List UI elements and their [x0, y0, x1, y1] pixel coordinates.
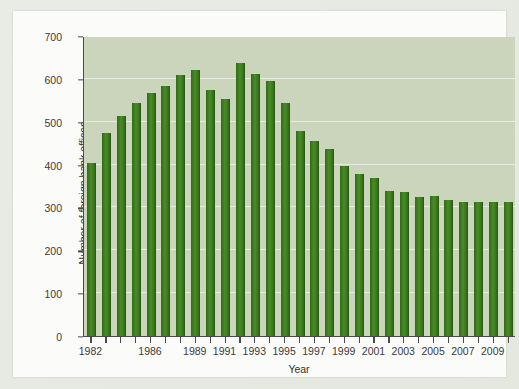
plot-inner	[84, 37, 515, 336]
y-tick-label: 700	[28, 31, 62, 43]
x-tick-label: 2007	[451, 345, 474, 357]
bar	[176, 75, 185, 336]
y-tick-label: 600	[28, 74, 62, 86]
x-tick-mark	[314, 337, 315, 343]
bar	[281, 103, 290, 336]
bar	[340, 166, 349, 336]
y-tick-mark	[78, 336, 83, 337]
x-tick-label: 2005	[421, 345, 444, 357]
x-axis-title: Year	[83, 363, 515, 375]
x-tick-mark	[254, 337, 255, 343]
bar	[415, 197, 424, 336]
x-tick-mark	[508, 337, 509, 343]
x-tick-mark	[418, 337, 419, 343]
y-tick-mark	[78, 208, 83, 209]
y-tick-label: 100	[28, 288, 62, 300]
bar	[102, 133, 111, 336]
bar	[117, 116, 126, 336]
x-tick-mark	[344, 337, 345, 343]
y-tick-label: 300	[28, 202, 62, 214]
x-tick-mark	[195, 337, 196, 343]
bar	[266, 81, 275, 336]
x-tick-mark	[135, 337, 136, 343]
y-tick-mark	[78, 293, 83, 294]
figure-page: Number of foreign bank offices Year 0100…	[0, 0, 519, 389]
bar	[236, 63, 245, 336]
bar	[370, 178, 379, 336]
x-tick-label: 1999	[332, 345, 355, 357]
x-tick-mark	[284, 337, 285, 343]
bar	[161, 86, 170, 336]
x-tick-label: 1993	[243, 345, 266, 357]
x-tick-label: 1989	[183, 345, 206, 357]
x-tick-mark	[373, 337, 374, 343]
y-tick-mark	[78, 122, 83, 123]
y-tick-mark	[78, 165, 83, 166]
x-tick-label: 2003	[392, 345, 415, 357]
bar	[206, 90, 215, 336]
gridline	[84, 78, 515, 79]
x-tick-mark	[150, 337, 151, 343]
bar	[325, 149, 334, 336]
bar	[504, 202, 513, 336]
bar	[296, 131, 305, 336]
bar	[355, 174, 364, 336]
x-tick-label: 1982	[79, 345, 102, 357]
y-tick-label: 400	[28, 160, 62, 172]
x-tick-mark	[493, 337, 494, 343]
bar	[221, 99, 230, 336]
bar	[400, 192, 409, 336]
bar	[147, 93, 156, 336]
x-tick-label: 1997	[302, 345, 325, 357]
plot-area	[83, 37, 515, 337]
bar	[474, 202, 483, 336]
x-tick-mark	[269, 337, 270, 343]
x-tick-mark	[448, 337, 449, 343]
bar	[191, 70, 200, 336]
y-tick-mark	[78, 36, 83, 37]
y-tick-label: 500	[28, 117, 62, 129]
bar	[385, 191, 394, 336]
x-tick-label: 1986	[138, 345, 161, 357]
x-tick-mark	[463, 337, 464, 343]
x-tick-label: 1991	[213, 345, 236, 357]
x-tick-mark	[225, 337, 226, 343]
y-tick-mark	[78, 251, 83, 252]
figure-card: Number of foreign bank offices Year 0100…	[13, 11, 506, 377]
x-tick-mark	[180, 337, 181, 343]
bar	[251, 74, 260, 336]
bar	[310, 141, 319, 336]
bar	[444, 200, 453, 336]
x-tick-mark	[105, 337, 106, 343]
bar	[489, 202, 498, 336]
x-tick-mark	[299, 337, 300, 343]
x-tick-mark	[359, 337, 360, 343]
bar	[459, 202, 468, 336]
x-tick-mark	[210, 337, 211, 343]
x-tick-mark	[239, 337, 240, 343]
x-tick-mark	[403, 337, 404, 343]
x-tick-mark	[478, 337, 479, 343]
x-tick-mark	[329, 337, 330, 343]
x-tick-mark	[388, 337, 389, 343]
x-tick-label: 2009	[481, 345, 504, 357]
bar	[132, 103, 141, 336]
bar	[87, 163, 96, 336]
x-tick-label: 1995	[272, 345, 295, 357]
x-tick-label: 2001	[362, 345, 385, 357]
y-tick-mark	[78, 79, 83, 80]
y-tick-label: 200	[28, 245, 62, 257]
x-tick-mark	[165, 337, 166, 343]
x-tick-mark	[433, 337, 434, 343]
x-tick-mark	[90, 337, 91, 343]
y-tick-label: 0	[28, 331, 62, 343]
x-tick-mark	[120, 337, 121, 343]
bar	[430, 196, 439, 336]
